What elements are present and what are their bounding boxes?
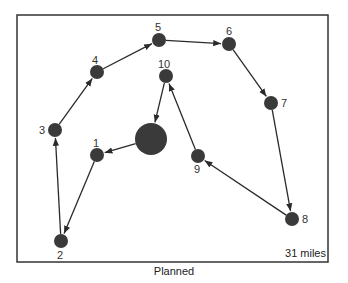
map-frame — [17, 15, 328, 262]
depot-node — [135, 123, 167, 155]
route-nodes — [48, 33, 299, 248]
route-edge — [233, 50, 266, 97]
stop-label-2: 2 — [57, 250, 63, 261]
stop-label-6: 6 — [226, 26, 232, 37]
route-edge — [155, 83, 164, 123]
stop-node-4 — [90, 65, 104, 79]
stop-node-3 — [48, 123, 62, 137]
route-diagram — [0, 0, 348, 283]
route-edge — [55, 138, 60, 234]
route-edge — [103, 44, 152, 69]
stop-label-9: 9 — [194, 164, 200, 175]
stop-node-8 — [285, 212, 299, 226]
stop-node-10 — [159, 69, 173, 83]
route-edge — [272, 110, 290, 211]
route-edge — [205, 160, 287, 215]
route-edge — [169, 83, 195, 149]
stop-label-3: 3 — [39, 125, 45, 136]
stop-label-7: 7 — [281, 98, 287, 109]
stop-label-1: 1 — [93, 138, 99, 149]
route-edge — [105, 144, 136, 153]
route-edge — [59, 78, 92, 124]
stop-label-5: 5 — [155, 22, 161, 33]
stop-node-5 — [152, 33, 166, 47]
stop-node-9 — [191, 149, 205, 163]
diagram-caption: Planned — [0, 265, 348, 277]
route-edge — [64, 161, 94, 233]
stop-node-6 — [222, 37, 236, 51]
route-edge — [166, 40, 221, 43]
stop-node-7 — [264, 96, 278, 110]
stop-label-10: 10 — [158, 59, 170, 70]
stop-node-1 — [90, 148, 104, 162]
stop-node-2 — [54, 234, 68, 248]
distance-label: 31 miles — [285, 247, 326, 259]
stop-label-4: 4 — [92, 55, 98, 66]
stop-label-8: 8 — [302, 214, 308, 225]
